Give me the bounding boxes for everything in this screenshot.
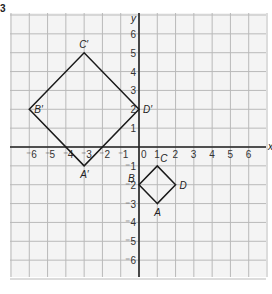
y-tick-label: 4	[130, 67, 136, 78]
vertex-label: C	[160, 153, 168, 164]
vertex-label: B′	[34, 104, 44, 115]
x-tick-label: 6	[246, 149, 252, 160]
x-tick-label: 2	[173, 149, 179, 160]
x-tick-label: ⁻2	[99, 149, 110, 160]
x-tick-label: 4	[209, 149, 215, 160]
x-tick-label: ⁻6	[26, 149, 37, 160]
vertex-label: A′	[79, 169, 90, 180]
y-tick-label: 6	[130, 29, 136, 40]
x-axis-label: x	[267, 141, 272, 152]
y-tick-label: 3	[130, 85, 136, 96]
y-tick-label: ⁻6	[125, 255, 136, 266]
x-tick-label: ⁻5	[45, 149, 56, 160]
vertex-label: A	[153, 207, 161, 218]
vertex-label: C′	[79, 39, 89, 50]
vertex-label: D	[180, 180, 187, 191]
x-tick-label: 5	[227, 149, 233, 160]
x-tick-label: ⁻1	[118, 149, 129, 160]
x-tick-label: 0	[141, 149, 147, 160]
y-tick-label: 5	[130, 48, 136, 59]
y-tick-label: 1	[130, 123, 136, 134]
x-tick-label: 3	[191, 149, 197, 160]
y-tick-label: ⁻5	[125, 236, 136, 247]
vertex-label: D′	[143, 104, 153, 115]
y-tick-label: ⁻1	[125, 161, 136, 172]
y-tick-label: ⁻3	[125, 199, 136, 210]
y-axis-label: y	[130, 13, 137, 24]
vertex-label: B	[128, 173, 135, 184]
coordinate-grid: xy⁻6⁻5⁻4⁻3⁻2⁻10123456654321⁻1⁻2⁻3⁻4⁻5⁻6A…	[0, 0, 272, 294]
y-tick-label: ⁻4	[125, 217, 136, 228]
